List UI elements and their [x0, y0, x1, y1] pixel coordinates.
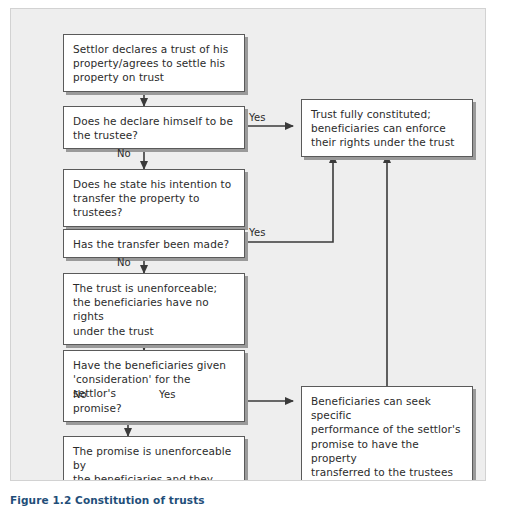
node-specific-performance-text: Beneficiaries can seek specific performa… — [311, 394, 463, 479]
node-transfer-made-text: Has the transfer been made? — [73, 237, 235, 251]
node-consideration-given-text: Have the beneficiaries given 'considerat… — [73, 358, 235, 415]
node-state-intention-text: Does he state his intention to transfer … — [73, 177, 235, 220]
edge-label-declare-trustee-yes: Yes — [249, 112, 265, 123]
node-promise-unenforceable-text: The promise is unenforceable by the bene… — [73, 444, 235, 481]
node-trust-constituted-text: Trust fully constituted; beneficiaries c… — [311, 107, 463, 150]
node-trust-unenforceable: The trust is unenforceable; the benefici… — [63, 273, 245, 345]
figure-caption: Figure 1.2 Constitution of trusts — [10, 494, 490, 506]
edge-label-consideration-yes: Yes — [159, 389, 175, 400]
node-consideration-given: Have the beneficiaries given 'considerat… — [63, 350, 245, 422]
edge-label-transfer-made-yes: Yes — [249, 227, 265, 238]
figure-root: Settlor declares a trust of his property… — [0, 0, 510, 515]
node-declare-himself-trustee: Does he declare himself to be the truste… — [63, 106, 245, 149]
node-specific-performance: Beneficiaries can seek specific performa… — [301, 386, 473, 481]
node-trust-unenforceable-text: The trust is unenforceable; the benefici… — [73, 281, 235, 338]
node-declare-himself-trustee-text: Does he declare himself to be the truste… — [73, 114, 235, 142]
node-transfer-made: Has the transfer been made? — [63, 229, 245, 258]
node-state-intention: Does he state his intention to transfer … — [63, 169, 245, 227]
node-trust-constituted: Trust fully constituted; beneficiaries c… — [301, 99, 473, 157]
node-settlor-declares: Settlor declares a trust of his property… — [63, 34, 245, 92]
node-settlor-declares-text: Settlor declares a trust of his property… — [73, 42, 235, 85]
edge-label-transfer-made-no: No — [117, 257, 131, 268]
edge-label-consideration-no: No — [73, 389, 87, 400]
edge-label-declare-trustee-no: No — [117, 148, 131, 159]
flowchart-canvas: Settlor declares a trust of his property… — [10, 8, 486, 481]
node-promise-unenforceable: The promise is unenforceable by the bene… — [63, 436, 245, 481]
